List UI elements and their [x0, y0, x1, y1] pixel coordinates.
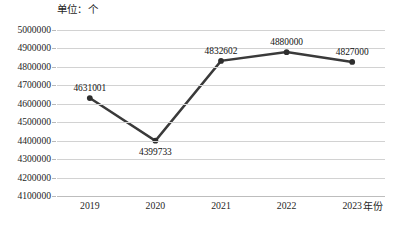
- y-axis-tick-label: 4300000: [17, 154, 51, 164]
- data-point-marker[interactable]: [218, 58, 224, 64]
- y-axis-tick-mark: [52, 30, 56, 31]
- y-axis-tick-mark: [52, 104, 56, 105]
- y-axis-tick-mark: [52, 141, 56, 142]
- gridline: [57, 196, 385, 197]
- data-point-marker[interactable]: [349, 59, 355, 65]
- x-axis-tick-label: 2023: [342, 201, 362, 211]
- x-axis-tick-label: 2022: [277, 201, 297, 211]
- y-axis-tick-mark: [52, 159, 56, 160]
- gridline: [57, 122, 385, 123]
- y-axis-tick-mark: [52, 85, 56, 86]
- y-axis-tick-label: 4800000: [17, 62, 51, 72]
- data-point-label: 4631001: [73, 83, 106, 93]
- gridline: [57, 159, 385, 160]
- gridline: [57, 141, 385, 142]
- series-polyline: [90, 52, 352, 141]
- gridline: [57, 67, 385, 68]
- gridline: [57, 104, 385, 105]
- x-axis-tick-label: 2019: [80, 201, 100, 211]
- data-point-marker[interactable]: [87, 95, 93, 101]
- y-axis-tick-mark: [52, 67, 56, 68]
- data-point-label: 4827000: [336, 47, 369, 57]
- y-axis-tick-label: 4900000: [17, 43, 51, 53]
- y-axis-tick-mark: [52, 178, 56, 179]
- y-axis-tick-label: 5000000: [17, 25, 51, 35]
- x-axis-title: 年份: [363, 201, 383, 212]
- y-axis-tick-label: 4100000: [17, 191, 51, 201]
- x-axis-tick-label: 2021: [211, 201, 231, 211]
- y-axis-tick-label: 4200000: [17, 173, 51, 183]
- plot-area: 46310014399733483260248800004827000: [57, 30, 385, 196]
- y-axis-tick-mark: [52, 48, 56, 49]
- x-axis-tick-labels: 20192020202120222023: [57, 201, 385, 215]
- y-axis-tick-mark: [52, 196, 56, 197]
- line-chart: 单位：个 50000004900000480000047000004600000…: [0, 0, 397, 226]
- data-point-marker[interactable]: [284, 49, 290, 55]
- gridline: [57, 178, 385, 179]
- data-point-label: 4880000: [270, 37, 303, 47]
- y-axis-tick-label: 4700000: [17, 80, 51, 90]
- y-axis-tick-mark: [52, 122, 56, 123]
- y-axis-tick-label: 4400000: [17, 136, 51, 146]
- y-axis-tick-labels: 5000000490000048000004700000460000045000…: [0, 30, 51, 196]
- data-point-label: 4832602: [205, 46, 238, 56]
- y-axis-tick-label: 4600000: [17, 99, 51, 109]
- data-point-label: 4399733: [139, 147, 172, 157]
- x-axis-tick-label: 2020: [146, 201, 166, 211]
- unit-label: 单位：个: [57, 1, 98, 16]
- y-axis-tick-label: 4500000: [17, 117, 51, 127]
- gridline: [57, 30, 385, 31]
